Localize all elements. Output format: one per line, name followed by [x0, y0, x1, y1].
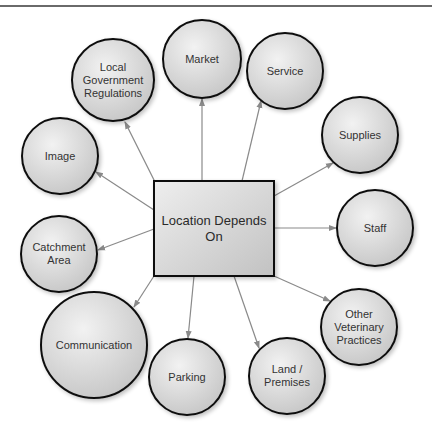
- diagram-canvas: [0, 0, 432, 439]
- arrow-to-communication: [134, 276, 154, 307]
- node-market: [163, 20, 241, 98]
- node-staff: [337, 190, 413, 266]
- node-local-government-regulations: [72, 39, 154, 121]
- node-land-premises: [249, 338, 325, 414]
- node-parking: [149, 339, 225, 415]
- arrow-to-land-premises: [234, 276, 259, 348]
- node-image: [22, 118, 98, 194]
- arrow-to-parking: [188, 276, 194, 338]
- node-other-veterinary-practices: [321, 289, 397, 365]
- arrow-to-service: [242, 101, 261, 181]
- center-layer: [154, 181, 274, 276]
- node-communication: [41, 292, 147, 398]
- arrow-to-other-veterinary-practices: [274, 276, 330, 301]
- arrow-to-local-government-regulations: [125, 122, 155, 182]
- node-service: [247, 33, 323, 109]
- node-catchment-area: [21, 216, 97, 292]
- node-supplies: [322, 97, 398, 173]
- arrow-to-catchment-area: [98, 229, 154, 250]
- arrow-to-supplies: [274, 163, 333, 196]
- center-box: [154, 181, 274, 276]
- arrow-to-image: [96, 172, 154, 210]
